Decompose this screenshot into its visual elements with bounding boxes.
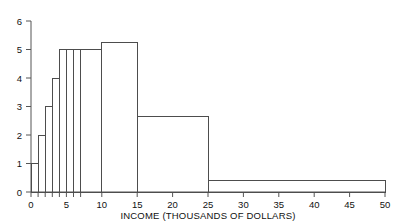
x-tick-label-20: 20 (167, 199, 178, 210)
x-tick-label-30: 30 (238, 199, 249, 210)
y-tick-label-5: 5 (17, 44, 22, 55)
income-histogram-chart: 0 1 2 3 4 5 6 (0, 0, 399, 221)
y-tick-label-1: 1 (17, 158, 22, 169)
x-tick-label-0: 0 (28, 199, 33, 210)
x-tick-label-15: 15 (132, 199, 143, 210)
y-axis-ticks (26, 21, 31, 192)
y-tick-label-3: 3 (17, 101, 22, 112)
y-tick-label-6: 6 (17, 16, 22, 27)
x-tick-label-10: 10 (97, 199, 108, 210)
histogram-bars (31, 42, 385, 192)
histogram-bar (38, 135, 45, 192)
histogram-bar (81, 50, 102, 193)
y-tick-label-2: 2 (17, 130, 22, 141)
y-axis-tick-labels: 0 1 2 3 4 5 6 (17, 16, 22, 198)
x-axis-tick-labels: 0 5 10 15 20 25 30 35 40 45 50 (28, 199, 390, 210)
histogram-bar (31, 164, 38, 193)
x-tick-label-35: 35 (274, 199, 285, 210)
x-tick-label-25: 25 (203, 199, 214, 210)
histogram-figure: 0 1 2 3 4 5 6 (0, 0, 399, 221)
x-tick-label-45: 45 (344, 199, 355, 210)
x-tick-label-5: 5 (64, 199, 69, 210)
histogram-bar (137, 116, 208, 192)
x-axis-major-ticks (31, 192, 385, 197)
histogram-bar (59, 50, 66, 193)
histogram-bar (45, 107, 52, 193)
x-tick-label-50: 50 (380, 199, 391, 210)
x-tick-label-40: 40 (309, 199, 320, 210)
y-tick-label-0: 0 (17, 187, 22, 198)
histogram-bar (66, 50, 73, 193)
histogram-bar (52, 78, 59, 192)
histogram-bar (208, 181, 385, 192)
histogram-bar (102, 42, 137, 192)
x-axis-minor-ticks (38, 192, 81, 197)
y-tick-label-4: 4 (17, 73, 22, 84)
x-axis-title: INCOME (THOUSANDS OF DOLLARS) (120, 210, 295, 221)
histogram-bar (73, 50, 80, 193)
